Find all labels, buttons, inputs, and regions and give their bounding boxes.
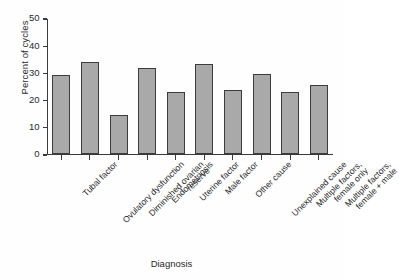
bar <box>110 115 128 154</box>
bar <box>195 64 213 153</box>
y-tick-label: 0 <box>34 148 39 159</box>
y-tick-label: 10 <box>29 121 40 132</box>
bar <box>281 92 299 154</box>
x-tick-label: Multiple factors,female only <box>315 160 371 216</box>
bar <box>253 74 271 154</box>
y-tick: 40 <box>43 46 48 47</box>
bar <box>224 90 242 154</box>
y-tick: 50 <box>43 18 48 19</box>
y-axis-line <box>47 19 48 155</box>
bar <box>81 62 99 154</box>
bar <box>138 68 156 153</box>
bar <box>167 92 185 154</box>
x-tick <box>290 155 291 160</box>
y-tick-label: 20 <box>29 94 40 105</box>
x-tick <box>89 155 90 160</box>
x-tick <box>261 155 262 160</box>
x-tick-label: Tubal factor <box>81 160 120 199</box>
x-tick-label: Endometriosis <box>170 160 215 205</box>
x-axis-title: Diagnosis <box>0 258 343 269</box>
y-axis-title: Percent of cycles <box>19 0 30 128</box>
x-tick-label: Male factor <box>224 160 261 197</box>
x-tick <box>318 155 319 160</box>
x-tick <box>175 155 176 160</box>
bar <box>52 75 70 154</box>
x-tick <box>61 155 62 160</box>
y-tick-label: 50 <box>29 12 40 23</box>
y-tick: 30 <box>43 73 48 74</box>
x-tick-label: Multiple factors,female + male <box>343 160 399 216</box>
bar <box>310 85 328 153</box>
x-tick <box>147 155 148 160</box>
x-tick-label: Ovulatory dysfunction <box>121 160 186 225</box>
x-tick <box>232 155 233 160</box>
y-tick: 20 <box>43 100 48 101</box>
y-tick: 0 <box>43 154 48 155</box>
plot-area: 01020304050 <box>47 19 333 155</box>
x-tick-label: Uterine factor <box>198 160 241 203</box>
y-tick-label: 40 <box>29 40 40 51</box>
x-tick-label: Other cause <box>254 160 294 200</box>
x-tick-label: Unexplained cause <box>290 160 348 218</box>
x-tick <box>204 155 205 160</box>
y-tick-label: 30 <box>29 67 40 78</box>
x-tick-label: Diminished ovarianreserve <box>147 160 212 225</box>
x-tick <box>118 155 119 160</box>
y-tick: 10 <box>43 127 48 128</box>
